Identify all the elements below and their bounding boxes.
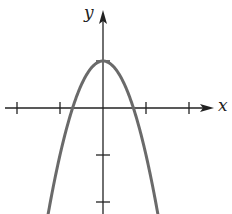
x-axis-label: x: [218, 97, 228, 114]
axes: [5, 10, 214, 214]
y-axis-label: y: [84, 4, 94, 21]
plot-area: [0, 0, 232, 214]
